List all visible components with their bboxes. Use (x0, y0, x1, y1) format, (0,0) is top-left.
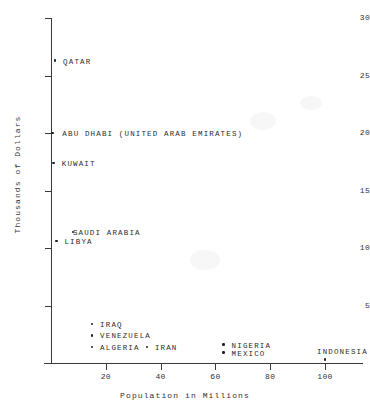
x-tick-label: 40 (146, 373, 176, 381)
x-tick (215, 364, 216, 370)
y-tick (45, 306, 52, 307)
data-point (54, 59, 57, 62)
x-tick-label: 60 (200, 373, 230, 381)
y-tick-label: 5 (328, 302, 370, 310)
data-point (55, 240, 58, 243)
data-point-label: SAUDI ARABIA (73, 229, 141, 237)
x-tick-label: 80 (255, 373, 285, 381)
data-point-label: ABU DHABI (UNITED ARAB EMIRATES) (62, 130, 243, 138)
data-point (52, 162, 55, 165)
data-point (51, 132, 54, 135)
data-point-label: MEXICO (232, 350, 266, 358)
x-axis-line (44, 363, 363, 364)
y-tick-label: 30 (328, 14, 370, 22)
y-tick (45, 18, 52, 19)
data-point-label: IRAN (155, 344, 178, 352)
x-tick (325, 364, 326, 370)
y-tick (45, 191, 52, 192)
y-tick (45, 248, 52, 249)
scan-artifact (250, 112, 276, 130)
y-axis-title: Thousands of Dollars (13, 95, 22, 255)
data-point-label: KUWAIT (62, 160, 96, 168)
y-tick-label: 15 (328, 187, 370, 195)
scan-artifact (300, 96, 322, 110)
data-point (324, 358, 327, 361)
data-point (91, 346, 94, 349)
scan-artifact (190, 250, 220, 270)
x-tick (161, 364, 162, 370)
data-point-label: INDONESIA (317, 348, 368, 356)
y-tick-label: 10 (328, 244, 370, 252)
y-tick (45, 76, 52, 77)
x-tick (106, 364, 107, 370)
data-point (222, 343, 225, 346)
data-point-label: NIGERIA (232, 342, 272, 350)
data-point (91, 334, 94, 337)
data-point-label: QATAR (63, 58, 91, 66)
data-point-label: ALGERIA (100, 344, 140, 352)
scatter-plot: 51015202530 20406080100 QATARABU DHABI (… (0, 0, 370, 405)
data-point-label: LIBYA (64, 238, 92, 246)
x-tick-label: 20 (91, 373, 121, 381)
x-axis-title: Population in Millions (0, 391, 370, 400)
y-tick-label: 25 (328, 72, 370, 80)
y-tick-label: 20 (328, 129, 370, 137)
data-point (91, 323, 94, 326)
data-point (146, 346, 149, 349)
data-point (222, 351, 225, 354)
data-point-label: VENEZUELA (100, 332, 151, 340)
x-tick-label: 100 (310, 373, 340, 381)
data-point-label: IRAQ (100, 321, 123, 329)
x-tick (270, 364, 271, 370)
